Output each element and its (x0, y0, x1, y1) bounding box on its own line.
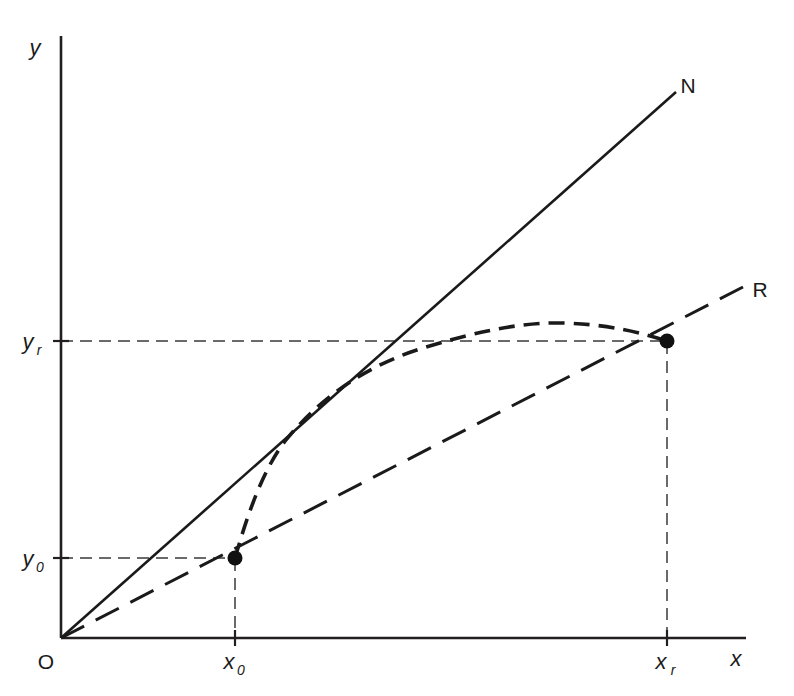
diagram-svg: y x O y r y 0 x 0 x r N R (0, 0, 794, 696)
x-tick-label-xr-base: x (655, 649, 668, 674)
x-tick-label-xr-sub: r (671, 662, 677, 678)
series-line-N (61, 92, 676, 638)
data-point-x0-y0 (228, 551, 243, 566)
data-point-xr-yr (660, 334, 675, 349)
series-label-R: R (752, 278, 767, 301)
y-tick-label-yr-base: y (21, 329, 36, 354)
y-tick-label-yr: y r (21, 329, 43, 358)
series-label-N: N (680, 74, 695, 97)
figure-canvas: y x O y r y 0 x 0 x r N R (0, 0, 794, 696)
y-axis-label: y (28, 35, 43, 60)
x-tick-label-xr: x r (655, 649, 677, 678)
y-tick-label-y0: y 0 (21, 546, 45, 575)
y-tick-label-y0-base: y (21, 546, 36, 571)
x-tick-label-x0-sub: 0 (237, 662, 245, 678)
x-axis-label: x (730, 646, 743, 671)
x-tick-label-x0-base: x (223, 649, 236, 674)
x-tick-label-x0: x 0 (223, 649, 246, 678)
y-tick-label-yr-sub: r (37, 342, 43, 358)
data-points (228, 334, 675, 566)
origin-label: O (38, 650, 54, 673)
series-line-R (61, 286, 745, 638)
y-tick-label-y0-sub: 0 (36, 559, 44, 575)
